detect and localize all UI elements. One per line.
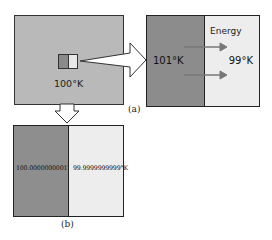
caption-b: (b) <box>61 219 74 229</box>
panel-b-hot-side: 100.0000000001°K <box>14 126 69 216</box>
panel-b-cold-label: 99.9999999999°K <box>73 164 128 171</box>
panel-b-hot-label: 100.0000000001°K <box>16 164 75 171</box>
energy-arrow-icon <box>184 43 227 51</box>
caption-a: (a) <box>128 104 140 114</box>
panel-b: 100.0000000001°K 99.9999999999°K <box>13 125 124 217</box>
energy-arrow-icon <box>184 71 227 79</box>
panel-b-cold-side: 99.9999999999°K <box>69 126 123 216</box>
